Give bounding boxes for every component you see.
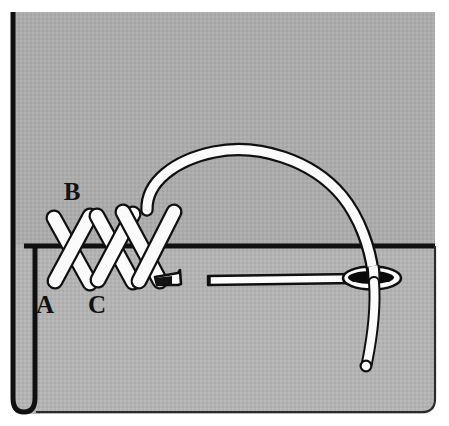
upper-tissue-flap: [11, 12, 435, 248]
suture-illustration: B A C: [0, 0, 449, 426]
label-b: B: [64, 178, 81, 205]
label-a: A: [36, 291, 54, 318]
needle-shaft: [208, 274, 355, 285]
illustration-canvas: B A C: [0, 0, 449, 426]
label-c: C: [88, 291, 106, 318]
